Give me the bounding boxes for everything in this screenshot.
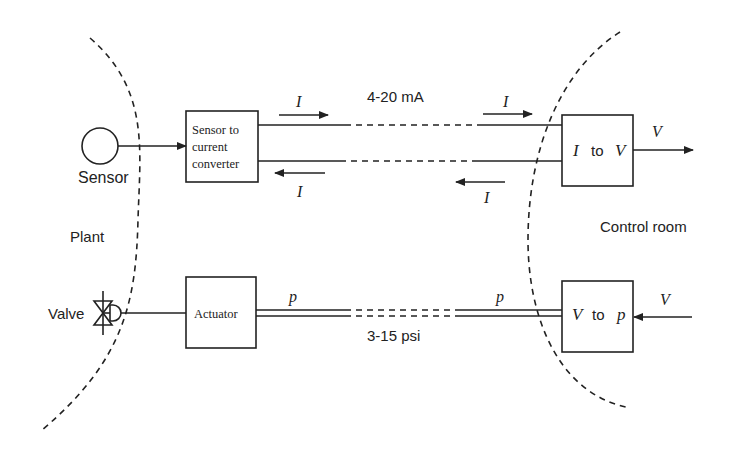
i-to-v-input-symbol: I [572, 141, 580, 160]
converter-label-line1: Sensor to [192, 123, 239, 137]
sensor-icon [82, 128, 118, 164]
current-symbol-bottom-left: I [296, 183, 303, 200]
voltage-input-symbol: V [660, 291, 672, 308]
pneumatic-pipe [256, 310, 562, 316]
actuator-label: Actuator [194, 307, 239, 321]
control-room-label: Control room [600, 218, 687, 235]
valve-icon [94, 291, 121, 335]
v-to-p-to-label: to [592, 306, 605, 323]
v-to-p-output-symbol: p [616, 305, 626, 324]
i-to-v-output-symbol: V [615, 141, 628, 160]
voltage-output-symbol: V [652, 123, 664, 140]
pressure-symbol-left: p [288, 288, 297, 306]
sensor-label: Sensor [78, 169, 129, 186]
v-to-p-input-symbol: V [572, 305, 585, 324]
current-signal-range: 4-20 mA [367, 88, 424, 105]
current-symbol-bottom-right: I [483, 189, 490, 206]
plant-label: Plant [70, 228, 105, 245]
i-to-v-to-label: to [591, 142, 604, 159]
process-control-diagram: Sensor Sensor to current converter I I I… [0, 0, 743, 456]
converter-label-line2: current [192, 140, 228, 154]
pressure-symbol-right: p [495, 288, 504, 306]
pneumatic-signal-range: 3-15 psi [367, 327, 420, 344]
current-symbol-top-right: I [502, 93, 509, 110]
current-symbol-top-left: I [295, 93, 302, 110]
valve-label: Valve [48, 305, 84, 322]
converter-label-line3: converter [192, 157, 240, 171]
